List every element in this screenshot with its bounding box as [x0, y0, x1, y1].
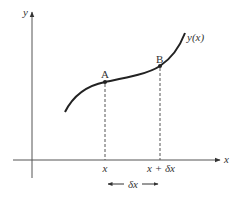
point-b-label: B: [156, 53, 163, 65]
derivative-diagram: y x y(x) A B x x + δx δx: [0, 0, 234, 200]
tick-label-x: x: [102, 162, 108, 174]
point-a: [103, 80, 107, 84]
interval-label: δx: [128, 178, 138, 190]
tick-label-x-plus-dx: x + δx: [146, 162, 175, 174]
curve-label: y(x): [186, 31, 204, 44]
curve-y-of-x: [65, 33, 185, 112]
y-axis-label: y: [22, 6, 28, 18]
point-a-label: A: [101, 68, 109, 80]
x-axis-label: x: [223, 153, 229, 165]
